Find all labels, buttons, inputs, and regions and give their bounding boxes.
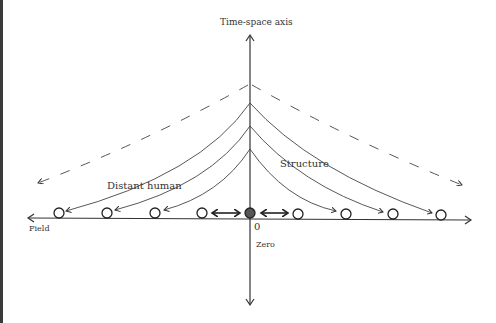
node-left-2 [150,208,160,218]
left-curves [66,103,250,211]
right-nodes [293,209,446,220]
time-space-axis [246,35,254,305]
diagram-canvas: Time-space axis Structure Distant human … [0,0,496,323]
origin-name-label: Zero [256,240,275,249]
node-right-2 [341,209,351,219]
left-nodes [54,208,207,218]
distant-human-label: Distant human [107,180,182,191]
node-right-4 [436,210,446,220]
diagram-svg [0,0,496,323]
origin-value-label: 0 [254,221,260,232]
vertical-axis-label: Time-space axis [220,17,293,27]
right-curves [250,103,432,213]
node-left-3 [102,208,112,218]
node-right-1 [293,209,303,219]
origin-node [245,208,255,218]
node-left-1 [197,208,207,218]
field-label: Field [29,224,50,233]
node-right-3 [388,209,398,219]
node-left-4 [54,208,64,218]
structure-label: Structure [280,158,329,169]
